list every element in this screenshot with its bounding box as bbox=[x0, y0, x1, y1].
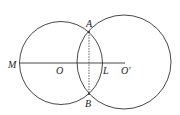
point-a bbox=[88, 31, 90, 33]
label-l: L bbox=[102, 65, 109, 76]
label-a: A bbox=[85, 18, 93, 29]
geometry-diagram: A B M O L O′ bbox=[0, 0, 180, 115]
label-m: M bbox=[7, 59, 17, 70]
label-o-prime: O′ bbox=[121, 65, 131, 76]
circle-o-prime bbox=[77, 15, 171, 109]
label-b: B bbox=[85, 98, 91, 109]
point-b bbox=[88, 93, 90, 95]
label-o: O bbox=[56, 65, 63, 76]
